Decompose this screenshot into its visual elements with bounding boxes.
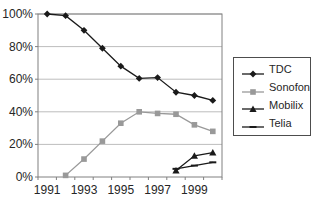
legend-label: Telia	[269, 118, 292, 129]
x-tick-label: 1999	[181, 183, 208, 197]
square-marker-icon	[136, 109, 142, 115]
legend-item-sonofon: Sonofon	[241, 80, 308, 96]
diamond-marker-icon	[209, 97, 216, 104]
diamond-marker-icon	[191, 92, 198, 99]
chart: 0%20%40%60%80%100%19911993199519971999 T…	[0, 0, 317, 210]
legend-label: TDC	[269, 64, 292, 75]
dash-marker-icon	[209, 161, 216, 163]
y-tick-label: 0%	[16, 170, 34, 184]
dash-marker-icon	[191, 165, 198, 167]
y-tick-label: 40%	[9, 105, 33, 119]
series-Telia	[173, 161, 217, 170]
square-marker-icon	[63, 173, 69, 179]
x-tick-label: 1997	[144, 183, 171, 197]
triangle-line-icon	[241, 100, 265, 110]
legend: TDC Sonofon Mobilix Telia	[233, 57, 311, 136]
x-tick-label: 1995	[107, 183, 134, 197]
dash-line-icon	[241, 118, 265, 128]
x-tick-label: 1991	[34, 183, 61, 197]
square-marker-icon	[192, 122, 198, 128]
dash-marker-icon	[250, 126, 257, 128]
y-tick-label: 20%	[9, 137, 33, 151]
y-tick-label: 80%	[9, 40, 33, 54]
legend-label: Sonofon	[269, 82, 310, 93]
diamond-marker-icon	[250, 70, 257, 77]
diamond-line-icon	[241, 65, 265, 75]
diamond-marker-icon	[44, 11, 51, 18]
series-line	[47, 14, 213, 100]
square-marker-icon	[155, 111, 161, 117]
dash-marker-icon	[173, 168, 180, 170]
square-marker-icon	[210, 129, 216, 135]
square-marker-icon	[81, 156, 87, 162]
triangle-marker-icon	[209, 149, 216, 156]
square-marker-icon	[250, 89, 256, 95]
square-line-icon	[241, 83, 265, 93]
legend-label: Mobilix	[269, 100, 303, 111]
legend-item-tdc: TDC	[241, 62, 308, 78]
x-tick-label: 1993	[71, 183, 98, 197]
legend-item-telia: Telia	[241, 115, 308, 131]
square-marker-icon	[100, 138, 106, 144]
diamond-marker-icon	[136, 75, 143, 82]
y-tick-label: 100%	[2, 7, 33, 21]
square-marker-icon	[173, 111, 179, 117]
square-marker-icon	[118, 120, 124, 126]
legend-item-mobilix: Mobilix	[241, 97, 308, 113]
y-tick-label: 60%	[9, 72, 33, 86]
series-Sonofon	[63, 109, 216, 178]
series-TDC	[44, 11, 216, 104]
